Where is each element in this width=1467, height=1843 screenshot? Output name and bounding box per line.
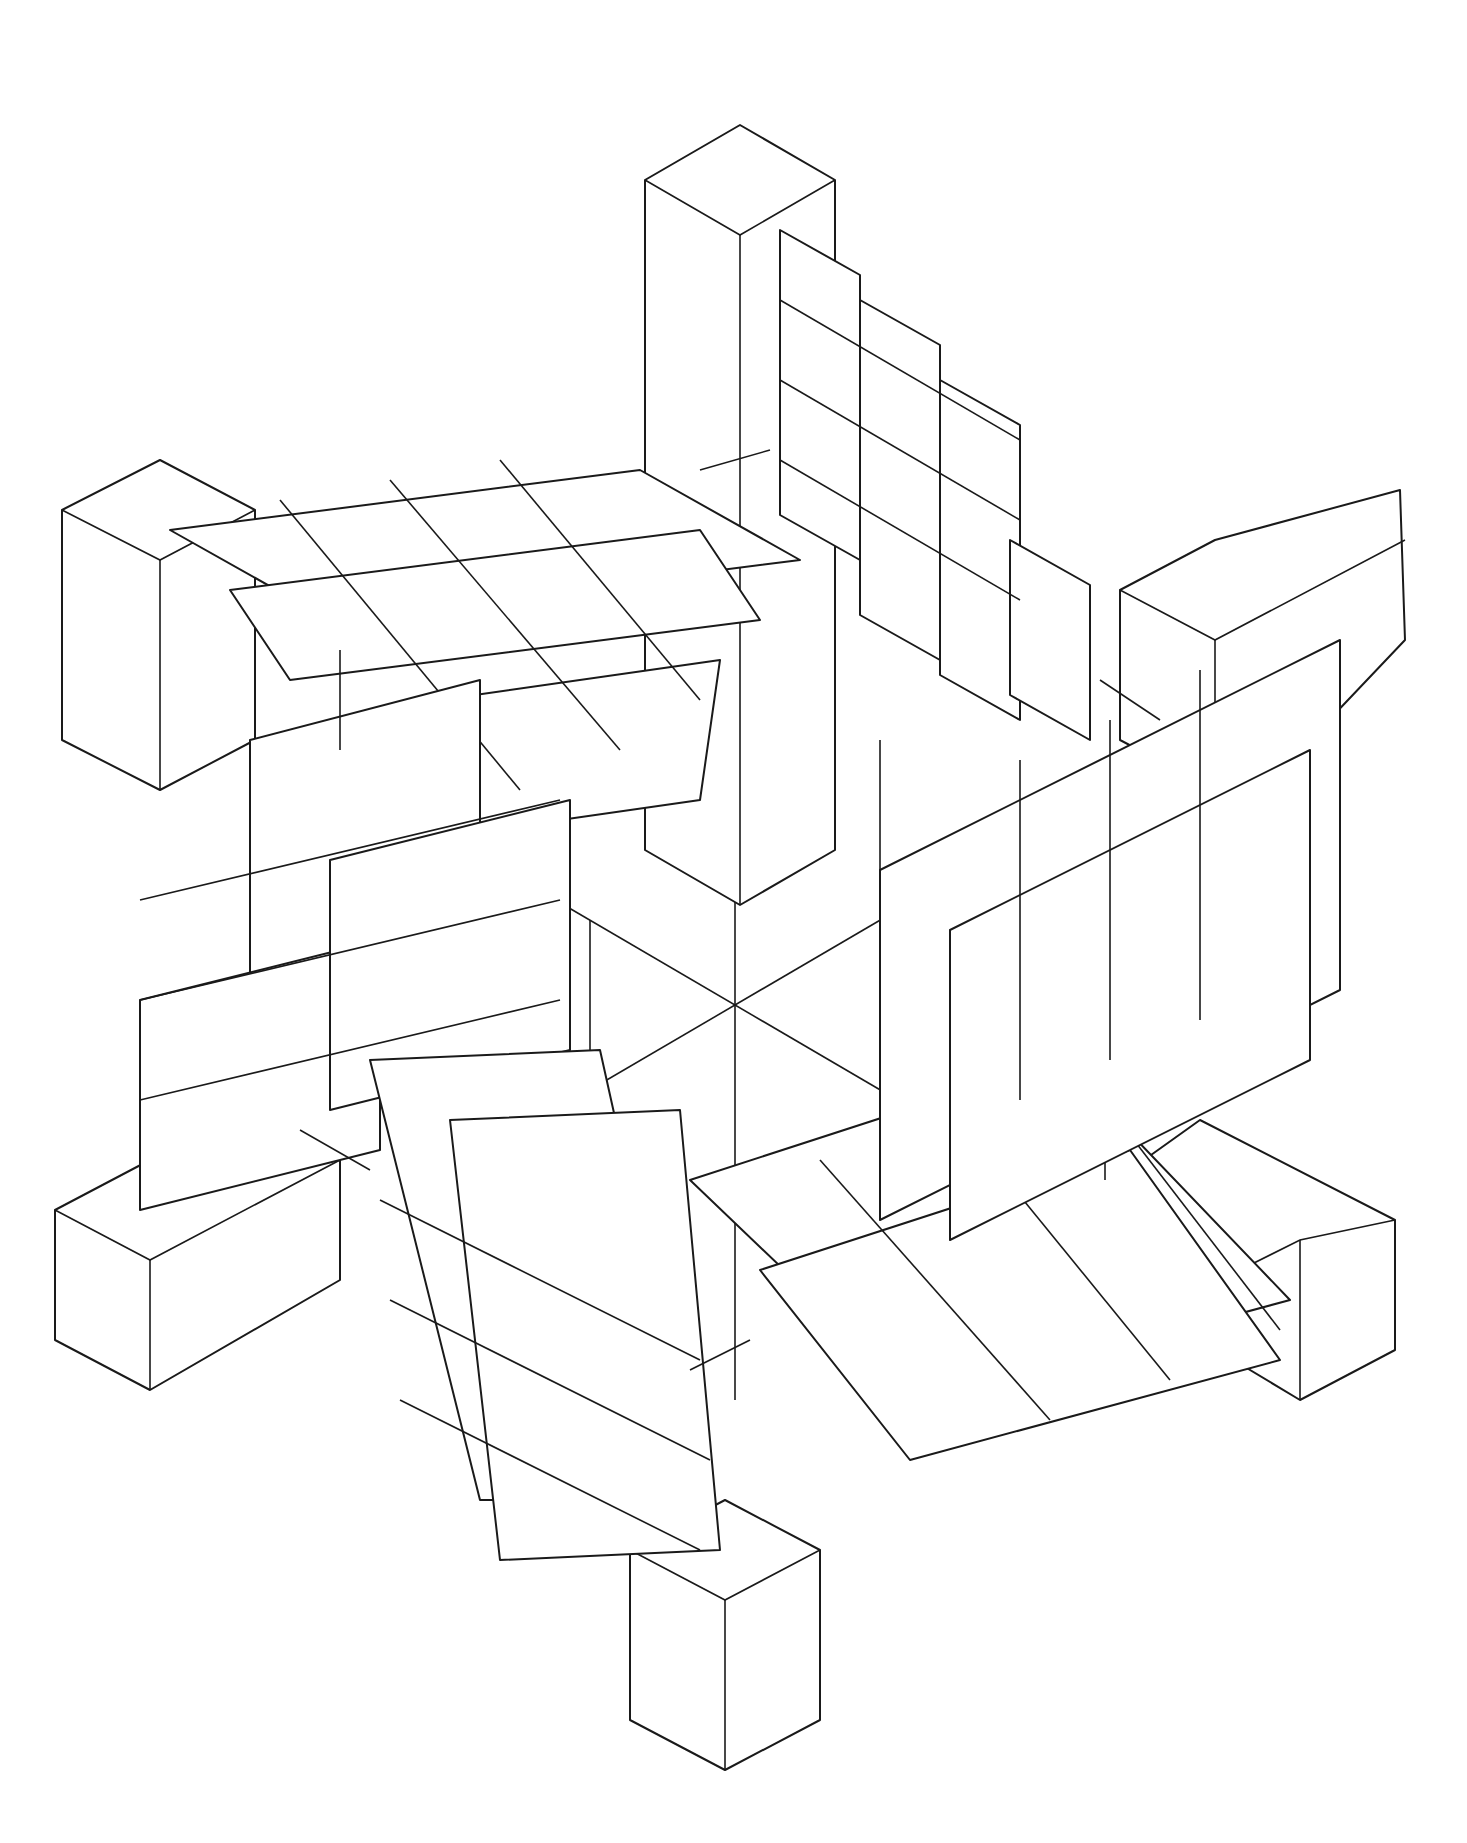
block-upper-left <box>62 460 255 790</box>
isometric-star-drawing <box>0 0 1467 1843</box>
arm-right-tiles <box>880 640 1340 1240</box>
drawing-canvas <box>0 0 1467 1843</box>
